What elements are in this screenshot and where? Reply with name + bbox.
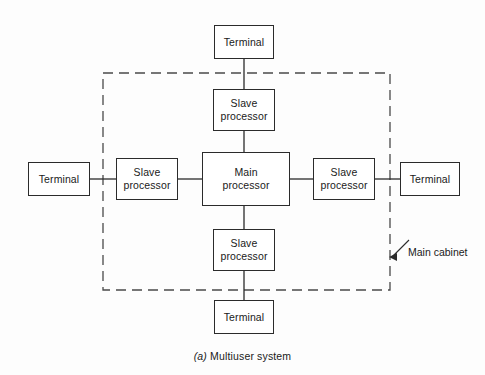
node-terminal-bottom[interactable]: Terminal bbox=[214, 300, 274, 334]
node-label: Terminal bbox=[224, 36, 264, 49]
node-slave-processor-left[interactable]: Slave processor bbox=[116, 158, 178, 200]
node-label: Terminal bbox=[39, 173, 79, 186]
node-slave-processor-right[interactable]: Slave processor bbox=[313, 158, 375, 200]
caption-index: (a) bbox=[194, 350, 207, 362]
node-label: Main processor bbox=[222, 166, 269, 192]
node-label: Terminal bbox=[224, 311, 264, 324]
main-cabinet-callout-label: Main cabinet bbox=[408, 233, 468, 259]
figure-container: Terminal Slave processor Terminal Slave … bbox=[0, 0, 485, 375]
node-terminal-right[interactable]: Terminal bbox=[400, 162, 460, 196]
node-slave-processor-bottom[interactable]: Slave processor bbox=[213, 229, 275, 271]
node-terminal-left[interactable]: Terminal bbox=[28, 162, 90, 196]
node-terminal-top[interactable]: Terminal bbox=[214, 25, 274, 59]
main-cabinet-label-text: Main cabinet bbox=[408, 246, 468, 258]
caption-text: Multiuser system bbox=[210, 350, 291, 362]
node-label: Slave processor bbox=[320, 166, 367, 192]
node-label: Slave processor bbox=[123, 166, 170, 192]
node-main-processor[interactable]: Main processor bbox=[202, 152, 290, 206]
node-label: Terminal bbox=[410, 173, 450, 186]
node-label: Slave processor bbox=[220, 97, 267, 123]
node-label: Slave processor bbox=[220, 237, 267, 263]
figure-caption: (a) Multiuser system bbox=[0, 350, 485, 362]
node-slave-processor-top[interactable]: Slave processor bbox=[213, 89, 275, 131]
